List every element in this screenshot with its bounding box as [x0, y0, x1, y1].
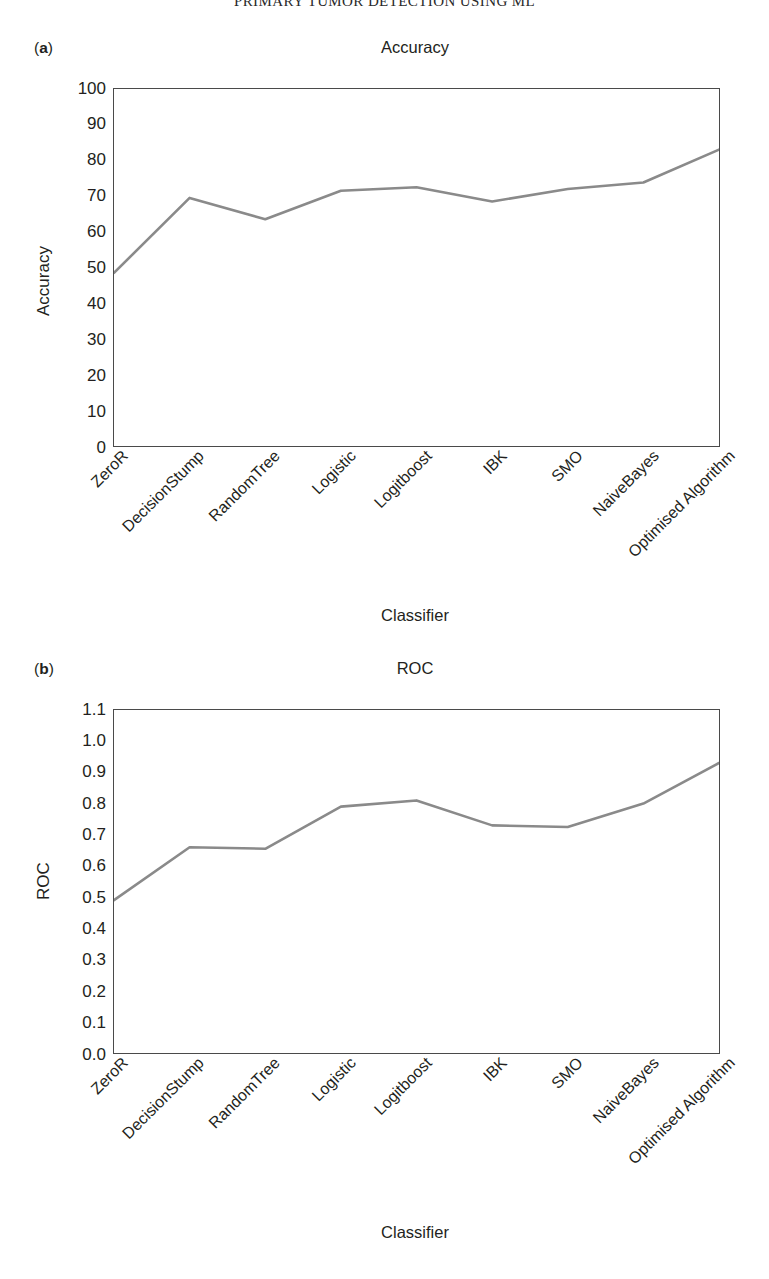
- y-tick-label: 0.7: [60, 826, 106, 843]
- y-tick-label: 0.6: [60, 857, 106, 874]
- x-tick-label: RandomTree: [205, 1054, 283, 1132]
- y-tick-label: 100: [60, 80, 106, 97]
- y-tick-label: 0.3: [60, 951, 106, 968]
- y-axis-ticks-roc: 0.00.10.20.30.40.50.60.70.80.91.01.1: [54, 709, 106, 1054]
- x-tick-label: Logitboost: [370, 447, 435, 512]
- x-axis-ticks-accuracy: ZeroRDecisionStumpRandomTreeLogisticLogi…: [113, 447, 720, 597]
- y-axis-title-roc: ROC: [34, 862, 54, 900]
- x-tick-label: SMO: [548, 447, 587, 486]
- running-head: PRIMARY TUMOR DETECTION USING ML: [0, 0, 769, 10]
- x-tick-label: NaiveBayes: [590, 447, 663, 520]
- plot-area-roc: [113, 709, 720, 1054]
- y-tick-label: 20: [60, 367, 106, 384]
- x-axis-title-roc: Classifier: [110, 1223, 720, 1242]
- chart-title-roc: ROC: [110, 659, 720, 678]
- y-tick-label: 0: [60, 439, 106, 456]
- y-axis-title-accuracy: Accuracy: [34, 246, 54, 316]
- x-tick-label: RandomTree: [205, 447, 283, 525]
- y-tick-label: 0.5: [60, 889, 106, 906]
- y-tick-label: 0.1: [60, 1014, 106, 1031]
- roc-line-series: [114, 710, 719, 1053]
- accuracy-line-series: [114, 89, 719, 446]
- chart-title-accuracy: Accuracy: [110, 38, 720, 57]
- y-tick-label: 0.4: [60, 920, 106, 937]
- y-tick-label: 80: [60, 151, 106, 168]
- y-tick-label: 10: [60, 403, 106, 420]
- y-tick-label: 0.0: [60, 1046, 106, 1063]
- y-axis-ticks-accuracy: 0102030405060708090100: [54, 88, 106, 447]
- x-tick-label: Logistic: [308, 447, 359, 498]
- y-tick-label: 50: [60, 259, 106, 276]
- panel-letter-b: (b): [34, 660, 54, 678]
- x-axis-title-accuracy: Classifier: [110, 606, 720, 625]
- x-tick-label: SMO: [548, 1054, 587, 1093]
- y-tick-label: 70: [60, 187, 106, 204]
- y-tick-label: 30: [60, 331, 106, 348]
- y-tick-label: 60: [60, 223, 106, 240]
- y-tick-label: 0.9: [60, 763, 106, 780]
- x-tick-label: Logistic: [308, 1054, 359, 1105]
- x-tick-label: NaiveBayes: [590, 1054, 663, 1127]
- y-tick-label: 0.8: [60, 795, 106, 812]
- x-tick-label: Logitboost: [370, 1054, 435, 1119]
- x-tick-label: DecisionStump: [119, 1054, 208, 1143]
- y-tick-label: 1.1: [60, 701, 106, 718]
- x-axis-ticks-roc: ZeroRDecisionStumpRandomTreeLogisticLogi…: [113, 1054, 720, 1204]
- plot-area-accuracy: [113, 88, 720, 447]
- y-tick-label: 40: [60, 295, 106, 312]
- panel-letter-a: (a): [34, 39, 53, 57]
- x-tick-label: DecisionStump: [119, 447, 208, 536]
- y-tick-label: 0.2: [60, 983, 106, 1000]
- y-tick-label: 1.0: [60, 732, 106, 749]
- x-tick-label: IBK: [480, 447, 511, 478]
- x-tick-label: IBK: [480, 1054, 511, 1085]
- y-tick-label: 90: [60, 115, 106, 132]
